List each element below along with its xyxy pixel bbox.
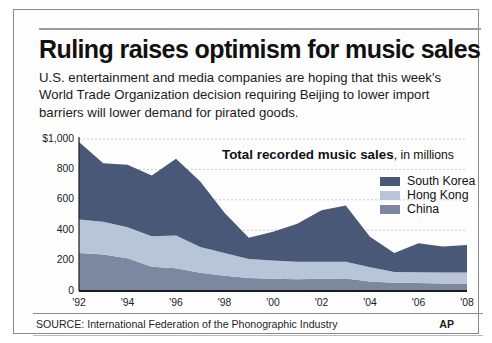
chart-legend: South Korea Hong Kong China: [380, 174, 475, 217]
legend-label-hong-kong: Hong Kong: [407, 188, 469, 202]
credit-label: AP: [439, 318, 454, 330]
x-axis-tick-label: '98: [208, 297, 242, 308]
x-axis-tick-label: '96: [159, 297, 193, 308]
deck-text: U.S. entertainment and media companies a…: [39, 69, 475, 121]
source-rule: [33, 313, 483, 314]
legend-label-south-korea: South Korea: [407, 174, 475, 188]
legend-swatch-south-korea: [380, 177, 400, 186]
chart-title: Total recorded music sales, in millions: [222, 147, 454, 162]
x-axis-tick-label: '08: [450, 297, 484, 308]
chart-title-main: Total recorded music sales: [222, 147, 394, 162]
y-axis-tick-label: 600: [28, 193, 74, 204]
top-rule: [39, 28, 481, 30]
x-axis-tick-label: '04: [353, 297, 387, 308]
legend-swatch-hong-kong: [380, 191, 400, 200]
x-axis-tick-label: '92: [62, 297, 96, 308]
bottom-rule: [33, 335, 483, 336]
y-axis-tick-label: 800: [28, 163, 74, 174]
x-axis-tick-label: '00: [256, 297, 290, 308]
chart-area: Total recorded music sales, in millions …: [28, 133, 480, 313]
legend-swatch-china: [380, 205, 400, 214]
y-axis-tick-label: 200: [28, 254, 74, 265]
x-axis-tick-label: '06: [402, 297, 436, 308]
source-label: SOURCE: International Federation of the …: [36, 318, 338, 330]
y-axis-tick-label: 400: [28, 224, 74, 235]
x-axis-tick-label: '02: [305, 297, 339, 308]
legend-item-hong-kong: Hong Kong: [380, 188, 475, 202]
y-axis-tick-label: 0: [28, 285, 74, 296]
legend-item-china: China: [380, 202, 475, 216]
legend-item-south-korea: South Korea: [380, 174, 475, 188]
x-axis-tick-label: '94: [111, 297, 145, 308]
chart-title-sub: , in millions: [394, 148, 454, 162]
page-title: Ruling raises optimism for music sales: [39, 34, 479, 64]
y-axis-tick-label: $1,000: [28, 133, 74, 144]
legend-label-china: China: [407, 202, 439, 216]
infographic-frame: Ruling raises optimism for music sales U…: [13, 9, 479, 334]
